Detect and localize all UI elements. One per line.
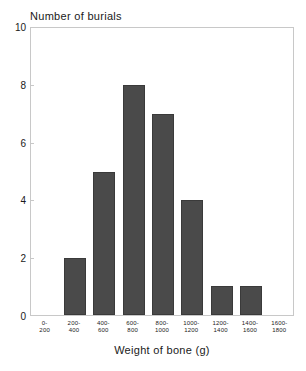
x-tick-label: 1200-1400 — [212, 320, 228, 334]
bar — [181, 200, 203, 315]
y-axis-title: Number of burials — [30, 10, 122, 22]
x-tick-label: 200-400 — [68, 320, 81, 334]
y-tick-label: 8 — [2, 79, 26, 90]
y-tick-mark — [30, 258, 34, 259]
x-tick-label: 1600-1800 — [271, 320, 287, 334]
bar-slot — [207, 28, 236, 315]
x-tick-label: 800-1000 — [155, 320, 169, 334]
bar — [152, 114, 174, 315]
y-tick-label: 6 — [2, 137, 26, 148]
bar-slot — [148, 28, 177, 315]
bar — [64, 258, 86, 315]
bar-slot — [178, 28, 207, 315]
x-tick-label: 600-800 — [126, 320, 139, 334]
bar-slot — [31, 28, 60, 315]
bars-layer — [31, 28, 293, 315]
y-tick-label: 2 — [2, 253, 26, 264]
bar-slot — [60, 28, 89, 315]
y-tick-mark — [30, 85, 34, 86]
y-tick-label: 10 — [2, 22, 26, 33]
x-tick-label: 1400-1600 — [242, 320, 258, 334]
bar — [240, 286, 262, 315]
bar-slot — [266, 28, 295, 315]
y-tick-label: 4 — [2, 195, 26, 206]
x-axis-title: Weight of bone (g) — [30, 344, 294, 356]
y-tick-mark — [30, 27, 34, 28]
bar — [211, 286, 233, 315]
x-tick-label: 400-600 — [97, 320, 110, 334]
x-tick-label: 1000-1200 — [183, 320, 199, 334]
y-tick-mark — [30, 143, 34, 144]
bar-slot — [236, 28, 265, 315]
bar — [123, 85, 145, 315]
y-tick-label: 0 — [2, 311, 26, 322]
bar-slot — [90, 28, 119, 315]
plot-area — [30, 27, 294, 316]
x-tick-label: 0-200 — [39, 320, 50, 334]
bar-slot — [119, 28, 148, 315]
bar — [93, 172, 115, 316]
bar-chart-figure: Number of burials 0246810 0-200200-40040… — [0, 0, 306, 371]
y-tick-mark — [30, 200, 34, 201]
